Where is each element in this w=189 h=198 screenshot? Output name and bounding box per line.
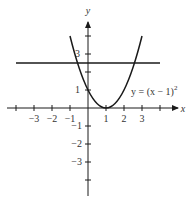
x-tick-label: 2 <box>122 113 127 124</box>
y-tick-label: 1 <box>75 84 80 95</box>
y-tick-label: −2 <box>71 138 82 149</box>
x-tick-label: −2 <box>47 113 58 124</box>
x-axis-label: x <box>180 103 186 114</box>
parabola-curve <box>70 36 142 108</box>
x-tick-label: 3 <box>140 113 145 124</box>
y-tick-label: −1 <box>71 120 82 131</box>
y-axis: y 3 1 −1 −2 −3 <box>71 5 91 196</box>
y-axis-label: y <box>85 5 91 16</box>
parabola-graph: x −3 −2 −1 1 2 3 y 3 1 −1 −2 −3 y = (x −… <box>0 0 189 198</box>
x-tick-label: 1 <box>104 113 109 124</box>
x-axis: x −3 −2 −1 1 2 3 <box>7 103 186 124</box>
x-tick-label: −3 <box>29 113 40 124</box>
curve-label: y = (x − 1)2 <box>131 84 178 98</box>
y-tick-label: −3 <box>71 156 82 167</box>
